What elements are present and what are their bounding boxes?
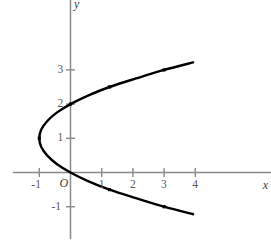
x-tick-label-4: 4	[192, 179, 198, 191]
x-tick-label-2: 2	[130, 179, 136, 191]
y-axis-label: y	[74, 0, 79, 10]
parabola-figure: x y O -1 1 2 3 4 -1 1 2 3	[0, 0, 271, 246]
x-tick-label-neg1: -1	[31, 179, 41, 191]
data-point-marker	[108, 85, 111, 88]
data-point-marker	[163, 68, 166, 71]
x-tick-label-3: 3	[161, 179, 167, 191]
origin-label: O	[60, 177, 69, 189]
plot-canvas	[0, 0, 271, 246]
data-point-marker	[163, 205, 166, 208]
x-tick-label-1: 1	[99, 179, 105, 191]
data-point-marker	[108, 188, 111, 191]
y-tick-label-neg1: -1	[52, 201, 62, 213]
data-point-marker	[38, 137, 41, 140]
y-tick-label-1: 1	[58, 132, 64, 144]
x-axis-label: x	[263, 179, 268, 191]
data-point-marker	[69, 103, 72, 106]
y-tick-label-3: 3	[58, 64, 64, 76]
y-tick-label-2: 2	[58, 98, 64, 110]
